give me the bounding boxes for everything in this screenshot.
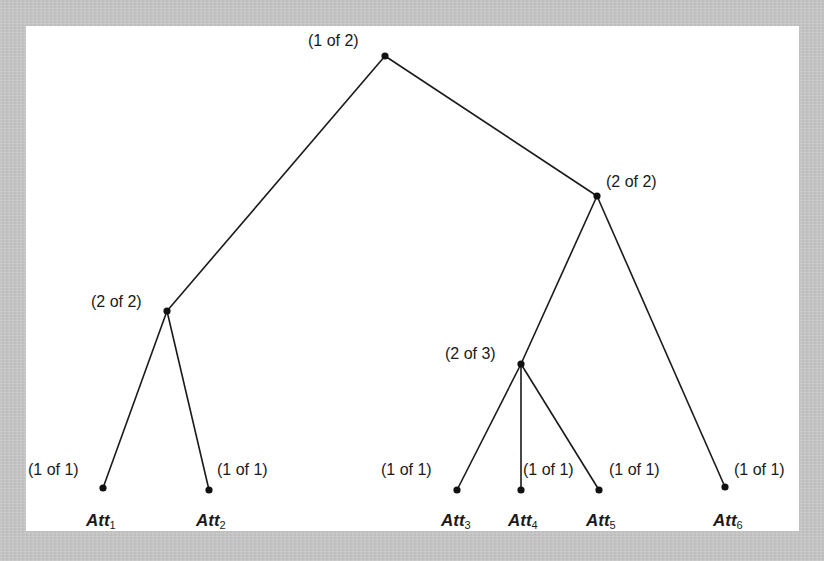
leaf-att6-threshold: (1 of 1) (734, 462, 785, 478)
node-root-label: (1 of 2) (308, 33, 359, 49)
leaf-att4-subscript: 4 (532, 519, 538, 531)
leaf-att4-threshold: (1 of 1) (523, 462, 574, 478)
node-mid-three-dot (517, 360, 524, 367)
node-left-mid-dot (163, 307, 170, 314)
leaf-att1-name: Att1 (86, 512, 116, 531)
node-root-dot (381, 52, 388, 59)
leaf-att5-threshold: (1 of 1) (609, 462, 660, 478)
leaf-att3-subscript: 3 (465, 519, 471, 531)
edge-leftmid-att2 (167, 311, 209, 490)
edge-rightmid-att6 (597, 196, 725, 487)
leaf-att1-threshold: (1 of 1) (28, 462, 79, 478)
leaf-att2-name-text: Att (196, 511, 220, 530)
leaf-att6-name-text: Att (713, 511, 737, 530)
edge-leftmid-att1 (103, 311, 167, 488)
leaf-att5-name-text: Att (586, 511, 610, 530)
leaf-att4-dot (517, 486, 524, 493)
node-right-mid-label: (2 of 2) (606, 174, 657, 190)
leaf-att4-name: Att4 (508, 512, 538, 531)
node-right-mid-dot (593, 192, 600, 199)
leaf-att2-name: Att2 (196, 512, 226, 531)
leaf-att5-subscript: 5 (610, 519, 616, 531)
leaf-att1-dot (99, 484, 106, 491)
leaf-att2-subscript: 2 (220, 519, 226, 531)
edge-root-right (385, 56, 597, 196)
leaf-att6-dot (721, 483, 728, 490)
leaf-att6-name: Att6 (713, 512, 743, 531)
edge-rightmid-midthree (521, 196, 597, 364)
leaf-att3-name-text: Att (441, 511, 465, 530)
leaf-att3-threshold: (1 of 1) (381, 462, 432, 478)
edge-root-left (167, 56, 385, 311)
leaf-att1-name-text: Att (86, 511, 110, 530)
node-mid-three-label: (2 of 3) (445, 346, 496, 362)
leaf-att2-dot (205, 486, 212, 493)
edge-midthree-att3 (457, 364, 521, 490)
leaf-att2-threshold: (1 of 1) (217, 462, 268, 478)
leaf-att3-name: Att3 (441, 512, 471, 531)
leaf-att5-name: Att5 (586, 512, 616, 531)
leaf-att3-dot (453, 486, 460, 493)
leaf-att1-subscript: 1 (110, 519, 116, 531)
node-left-mid-label: (2 of 2) (91, 294, 142, 310)
leaf-att4-name-text: Att (508, 511, 532, 530)
leaf-att5-dot (595, 486, 602, 493)
leaf-att6-subscript: 6 (737, 519, 743, 531)
